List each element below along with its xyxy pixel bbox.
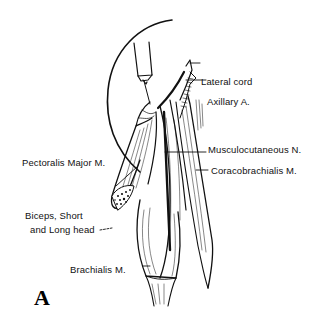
anatomy-figure: Lateral cord Axillary A. Musculocutaneou… <box>0 0 327 325</box>
label-pectoralis-major: Pectoralis Major M. <box>22 157 105 168</box>
leader-biceps <box>100 228 112 230</box>
body-contour-arc <box>107 20 172 172</box>
leader-lines <box>100 63 208 266</box>
label-lateral-cord: Lateral cord <box>201 76 252 87</box>
label-axillary-artery: Axillary A. <box>207 96 250 107</box>
label-musculocutaneous-nerve: Musculocutaneous N. <box>208 144 301 155</box>
panel-letter: A <box>34 285 50 311</box>
label-brachialis: Brachialis M. <box>70 264 126 275</box>
label-coracobrachialis: Coracobrachialis M. <box>211 165 297 176</box>
syringe-icon <box>134 42 152 104</box>
label-biceps-line2: and Long head <box>30 224 95 235</box>
label-biceps-line1: Biceps, Short <box>25 210 83 221</box>
